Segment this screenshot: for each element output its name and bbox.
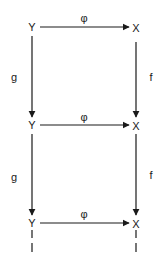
node-X-bottom: X <box>132 219 139 230</box>
label-g-lower: g <box>11 172 17 183</box>
node-Y-bottom: Y <box>28 218 35 229</box>
label-f-upper: f <box>149 72 152 83</box>
node-X-top: X <box>132 23 139 34</box>
label-f-lower: f <box>149 170 152 181</box>
label-g-upper: g <box>11 72 17 83</box>
node-Y-middle: Y <box>28 120 35 131</box>
label-phi-middle: φ <box>80 112 87 123</box>
diagram-canvas <box>0 0 161 273</box>
label-phi-top: φ <box>80 13 87 24</box>
node-X-middle: X <box>132 121 139 132</box>
node-Y-top: Y <box>28 22 35 33</box>
label-phi-bottom: φ <box>80 209 87 220</box>
